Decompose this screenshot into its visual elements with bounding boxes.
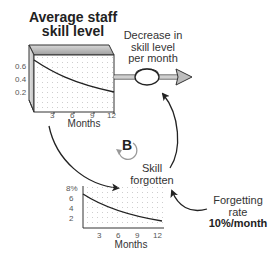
flow-label-line1: Decrease in (113, 30, 193, 42)
forgotten-chart (83, 186, 164, 228)
flow-label-line3: per month (113, 53, 193, 65)
top-x-tick-3: 3 (50, 111, 54, 120)
stock-title-line2: skill level (18, 24, 128, 38)
stock-title-line1: Average staff (18, 10, 128, 24)
bottom-x-tick-3: 3 (97, 231, 101, 240)
top-y-tick-0.6: 0.6 (15, 62, 26, 71)
stock-title: Average staff skill level (18, 10, 128, 38)
skill-forgotten-line2: forgotten (122, 175, 182, 187)
bottom-y-tick-4: 4 (69, 204, 73, 213)
link-stock-to-forgotten (49, 126, 118, 188)
top-y-tick-0.4: 0.4 (15, 75, 26, 84)
top-x-axis-label: Months (64, 119, 104, 130)
bottom-y-tick-6: 6 (69, 194, 73, 203)
flow-label: Decrease in skill level per month (113, 30, 193, 65)
forgetting-rate-value: 10%/month (203, 218, 273, 230)
forgetting-rate-line1: Forgetting (203, 195, 273, 207)
flow-valve (135, 69, 159, 85)
bottom-y-tick-2: 2 (69, 214, 73, 223)
loop-badge: B (119, 138, 135, 153)
skill-forgotten-label: Skill forgotten (122, 163, 182, 186)
link-rate-to-forgotten (172, 191, 207, 210)
bottom-x-axis-label: Months (111, 240, 151, 251)
stock-box (29, 45, 114, 114)
bottom-y-tick-8: 8% (66, 184, 78, 193)
skill-forgotten-line1: Skill (122, 163, 182, 175)
top-y-tick-0.2: 0.2 (15, 88, 26, 97)
bottom-x-tick-12: 12 (153, 231, 162, 240)
forgetting-rate-label: Forgetting rate 10%/month (203, 195, 273, 230)
top-x-tick-12: 12 (107, 111, 116, 120)
link-forgotten-to-valve (163, 94, 178, 168)
